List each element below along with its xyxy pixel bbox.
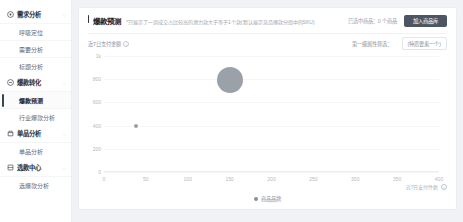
- gridline: [104, 102, 439, 103]
- app-root: 需求分析 呼吸定位 需要分析 标题分析 爆款转化: [0, 0, 463, 222]
- x-axis-caption-label: 近7日支付件数: [406, 183, 439, 190]
- info-icon[interactable]: i: [441, 184, 447, 190]
- filter-row: 近7日支付金额 i 第一级属性筛选： (特质要素一个): [88, 34, 447, 53]
- sidebar-item-select-0[interactable]: 选爆款分析: [0, 176, 71, 193]
- x-axis-tick: 350: [393, 176, 401, 182]
- x-axis-tick: 150: [225, 176, 233, 182]
- sidebar-group-select[interactable]: 选款中心: [0, 159, 71, 176]
- attribute-select[interactable]: (特质要素一个): [402, 37, 447, 49]
- info-icon[interactable]: i: [123, 41, 129, 47]
- target-icon: [7, 11, 14, 18]
- sidebar-group-single[interactable]: 单品分析: [0, 125, 71, 142]
- main-content: 爆款预测 *只展示了一周成交占比较高的潜力款大于等于1个款(默认展示竞品爆款分组…: [72, 0, 463, 222]
- flash-icon: [7, 79, 14, 86]
- sidebar-item-demand-2[interactable]: 标题分析: [0, 57, 71, 74]
- sidebar: 需求分析 呼吸定位 需要分析 标题分析 爆款转化: [0, 0, 72, 222]
- nav-group-single: 单品分析 单品分析: [0, 125, 71, 159]
- chevron-down-icon: [62, 12, 67, 17]
- sidebar-group-label: 爆款转化: [17, 78, 41, 87]
- sidebar-item-label: 选爆款分析: [19, 181, 49, 190]
- x-axis-tick: 250: [309, 176, 317, 182]
- gridline: [104, 126, 439, 127]
- sidebar-item-label: 爆款预测: [19, 96, 43, 105]
- sidebar-item-industry-hot[interactable]: 行业爆款分析: [0, 108, 71, 125]
- nav-group-demand: 需求分析 呼吸定位 需要分析 标题分析: [0, 6, 71, 74]
- y-axis-caption: 近7日支付金额 i: [88, 40, 129, 47]
- y-axis-tick: 1k: [96, 53, 101, 59]
- y-axis-caption-label: 近7日支付金额: [88, 40, 121, 47]
- sidebar-group-demand[interactable]: 需求分析: [0, 6, 71, 23]
- filter-controls: 第一级属性筛选： (特质要素一个): [352, 37, 447, 49]
- sidebar-group-label: 需求分析: [17, 10, 41, 19]
- title-wrap: 爆款预测 *只展示了一周成交占比较高的潜力款大于等于1个款(默认展示竞品爆款分组…: [88, 15, 315, 26]
- sidebar-item-label: 呼吸定位: [19, 28, 43, 37]
- sidebar-group-label: 单品分析: [17, 129, 41, 138]
- nav-group-select: 选款中心 选爆款分析: [0, 159, 71, 193]
- bubble-chart: 1k8006004002000050100150200250300350400 …: [88, 54, 447, 194]
- y-axis-tick: 400: [93, 123, 101, 129]
- x-axis-tick: 200: [267, 176, 275, 182]
- page-title: 爆款预测: [88, 15, 121, 26]
- gridline: [104, 79, 439, 80]
- y-axis-tick: 200: [93, 146, 101, 152]
- sidebar-item-label: 需要分析: [19, 45, 43, 54]
- box-icon: [7, 130, 14, 137]
- x-axis-tick: 100: [184, 176, 192, 182]
- x-axis-tick: 50: [143, 176, 149, 182]
- nav-group-hot: 爆款转化 爆款预测 行业爆款分析: [0, 74, 71, 125]
- data-point[interactable]: [217, 67, 243, 93]
- attribute-filter-label: 第一级属性筛选：: [352, 40, 392, 47]
- sidebar-group-hot[interactable]: 爆款转化: [0, 74, 71, 91]
- add-to-library-button[interactable]: 加入商品库: [404, 15, 447, 27]
- sidebar-item-label: 行业爆款分析: [19, 113, 55, 122]
- gridline: [104, 172, 439, 173]
- data-point[interactable]: [134, 124, 138, 128]
- y-axis-tick: 0: [98, 169, 101, 175]
- legend-label: 商品品牌: [261, 195, 281, 202]
- x-axis-caption: 近7日支付件数 i: [406, 183, 447, 190]
- x-axis-tick: 400: [435, 176, 443, 182]
- chevron-down-icon: [62, 165, 67, 170]
- header-actions: 已选中商品：0 个商品 加入商品库: [348, 15, 447, 27]
- sidebar-item-label: 标题分析: [19, 62, 43, 71]
- sidebar-item-label: 单品分析: [19, 147, 43, 156]
- sidebar-item-single-0[interactable]: 单品分析: [0, 142, 71, 159]
- grid-icon: [7, 164, 14, 171]
- card-header: 爆款预测 *只展示了一周成交占比较高的潜力款大于等于1个款(默认展示竞品爆款分组…: [88, 8, 447, 34]
- y-axis-tick: 800: [93, 76, 101, 82]
- sidebar-group-label: 选款中心: [17, 163, 41, 172]
- page-subtitle: *只展示了一周成交占比较高的潜力款大于等于1个款(默认展示竞品爆款分组中的SKU…: [126, 18, 315, 25]
- legend-swatch: [254, 197, 258, 201]
- x-axis-tick: 300: [351, 176, 359, 182]
- plot-area[interactable]: 1k8006004002000050100150200250300350400: [104, 56, 439, 172]
- sidebar-item-demand-1[interactable]: 需要分析: [0, 40, 71, 57]
- forecast-card: 爆款预测 *只展示了一周成交占比较高的潜力款大于等于1个款(默认展示竞品爆款分组…: [78, 7, 457, 210]
- x-axis-tick: 0: [103, 176, 106, 182]
- y-axis-tick: 600: [93, 99, 101, 105]
- chart-legend: 商品品牌: [88, 195, 447, 202]
- chevron-down-icon: [62, 80, 67, 85]
- chevron-down-icon: [62, 131, 67, 136]
- sidebar-item-hot-forecast[interactable]: 爆款预测: [0, 91, 71, 108]
- gridline: [104, 56, 439, 57]
- selection-count: 已选中商品：0 个商品: [348, 17, 397, 24]
- gridline: [104, 149, 439, 150]
- sidebar-item-demand-0[interactable]: 呼吸定位: [0, 23, 71, 40]
